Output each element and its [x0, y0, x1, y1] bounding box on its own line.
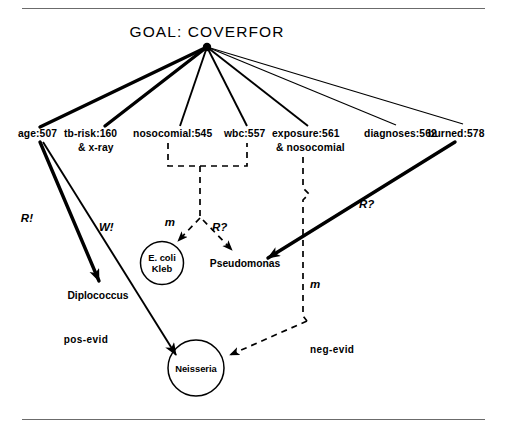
exposure-to-neisseria-arrow: [230, 321, 307, 355]
edge-goal-exposure: [207, 47, 308, 126]
edge-label-m-right: m: [310, 278, 320, 290]
dashed-bracket-nosocomial-wbc: [168, 143, 247, 216]
param-label-diagnoses: diagnoses:562: [364, 128, 437, 139]
edge-label-r-question-right: R?: [359, 198, 374, 210]
edge-goal-diagnoses: [207, 47, 396, 125]
param-label-exposure: exposure:561: [272, 128, 340, 139]
param-sub-exposure: & nosocomial: [276, 142, 345, 153]
edge-label-pos-evid: pos-evid: [64, 334, 108, 345]
diagram-figure: GOAL: COVERFOR age:507 tb-risk:160 & x-r…: [0, 0, 505, 436]
organism-neisseria: Neisseria: [168, 340, 224, 396]
organism-diplococcus: Diplococcus: [67, 290, 128, 301]
edge-goal-tb-risk: [105, 47, 207, 126]
edge-to-ecoli-kleb: [178, 218, 200, 241]
ecoli-kleb-line1: E. coli: [148, 252, 176, 263]
edge-goal-age: [40, 47, 207, 127]
edge-label-r-bang: R!: [21, 212, 33, 224]
param-label-tb-risk: tb-risk:160: [64, 128, 117, 139]
goal-title: GOAL: COVERFOR: [130, 23, 285, 40]
edge-age-to-neisseria: [43, 142, 176, 355]
diagram-canvas: GOAL: COVERFOR age:507 tb-risk:160 & x-r…: [0, 0, 505, 436]
param-label-age: age:507: [18, 128, 57, 139]
exposure-vertical-dashed: [303, 157, 309, 321]
edge-label-m-left: m: [165, 216, 175, 228]
param-label-nosocomial: nosocomial:545: [133, 128, 212, 139]
edge-age-to-diplococcus: [40, 142, 99, 281]
param-sub-tb-risk: & x-ray: [78, 142, 114, 153]
edge-label-r-question-left: R?: [212, 221, 227, 233]
parameter-labels: age:507 tb-risk:160 & x-ray nosocomial:5…: [18, 128, 485, 153]
edge-goal-burned: [207, 47, 463, 124]
param-label-burned: burned:578: [428, 128, 485, 139]
goal-fan-edges: [40, 43, 463, 127]
edge-label-w-bang: W!: [99, 221, 114, 233]
neisseria-label: Neisseria: [175, 363, 217, 374]
param-label-wbc: wbc:557: [223, 128, 266, 139]
organism-ecoli-kleb: E. coli Kleb: [141, 242, 184, 285]
organism-pseudomonas: Pseudomonas: [210, 258, 281, 269]
edge-goal-wbc: [207, 47, 247, 126]
edge-label-neg-evid: neg-evid: [310, 344, 354, 355]
bracket-path: [168, 143, 247, 166]
goal-apex-node: [203, 43, 211, 51]
ecoli-kleb-line2: Kleb: [152, 263, 173, 274]
